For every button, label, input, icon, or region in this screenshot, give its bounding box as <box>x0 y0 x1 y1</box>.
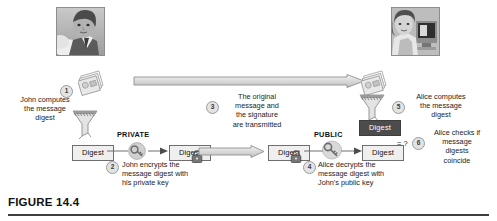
figure-14-4-diagram: 1 John computes the message digest 3 The… <box>0 0 497 221</box>
step-4-line-3: John's public key <box>318 178 402 187</box>
step-3-line-3: the signature <box>220 110 294 119</box>
bottom-transmission-arrow-icon <box>198 144 265 157</box>
step-2-bullet: 2 <box>106 161 119 174</box>
figure-label: FIGURE 14.4 <box>8 196 79 208</box>
step-5-caption: Alice computes the message digest <box>406 92 476 120</box>
digest-box-received: Digest <box>359 120 401 136</box>
step-6-line-2: message <box>424 137 490 146</box>
key-icon-public <box>320 139 344 161</box>
step-4-caption: Alice decrypts the message digest with J… <box>318 160 402 188</box>
step-6-line-4: coincide <box>424 156 490 165</box>
step-5-line-1: Alice computes <box>406 92 476 101</box>
step-1-caption: John computes the message digest <box>14 95 76 123</box>
step-2-caption: John encrypts the message digest with hi… <box>122 160 204 188</box>
equality-question-mark: = ? <box>397 139 408 148</box>
step-3-line-1: The original <box>220 92 294 101</box>
step-6-line-3: digests <box>424 146 490 155</box>
document-stack-icon <box>78 70 108 97</box>
figure-rule-divider <box>8 214 489 216</box>
step-3-bullet: 3 <box>206 101 219 114</box>
step-6-line-1: Alice checks if <box>424 128 490 137</box>
step-4-line-1: Alice decrypts the <box>318 160 402 169</box>
private-key-label: PRIVATE <box>117 130 149 139</box>
public-key-label: PUBLIC <box>314 130 343 139</box>
step-2-line-1: John encrypts the <box>122 160 204 169</box>
funnel-icon-right <box>358 92 386 123</box>
step-6-caption: Alice checks if message digests coincide <box>424 128 490 165</box>
step-1-line-3: digest <box>14 113 76 122</box>
step-3-caption: The original message and the signature a… <box>220 92 294 129</box>
step-4-line-2: message digest with <box>318 169 402 178</box>
step-3-line-4: are transmitted <box>220 120 294 129</box>
step-2-line-2: message digest with <box>122 169 204 178</box>
step-1-line-2: the message <box>14 104 76 113</box>
receiver-photo <box>391 7 440 56</box>
lock-icon-right <box>289 149 303 162</box>
step-2-line-3: his private key <box>122 178 204 187</box>
step-5-line-2: the message <box>406 101 476 110</box>
step-5-bullet: 5 <box>392 101 405 114</box>
sender-photo <box>56 7 105 56</box>
top-transmission-arrow-icon <box>133 74 365 88</box>
step-3-line-2: message and <box>220 101 294 110</box>
key-icon-private <box>126 141 148 161</box>
step-1-line-1: John computes <box>14 95 76 104</box>
step-4-bullet: 4 <box>303 161 316 174</box>
step-5-line-3: digest <box>406 110 476 119</box>
